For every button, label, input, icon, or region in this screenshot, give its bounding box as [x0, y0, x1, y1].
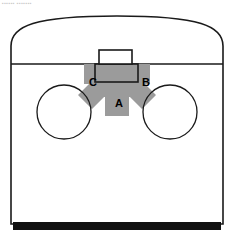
figure-root: ▪▪▪▪▪▪ ▪▪▪▪▪▪▪ A B C: [0, 0, 235, 242]
watermark-label: ▪▪▪▪▪▪ ▪▪▪▪▪▪▪: [2, 0, 32, 6]
label-a: A: [115, 97, 123, 109]
label-b: B: [142, 76, 150, 88]
enclosure-outline: [11, 16, 223, 224]
diagram-canvas: A B C: [0, 0, 235, 242]
top-rectangle: [99, 50, 132, 64]
label-c: C: [89, 76, 97, 88]
bottom-bar: [13, 222, 221, 230]
